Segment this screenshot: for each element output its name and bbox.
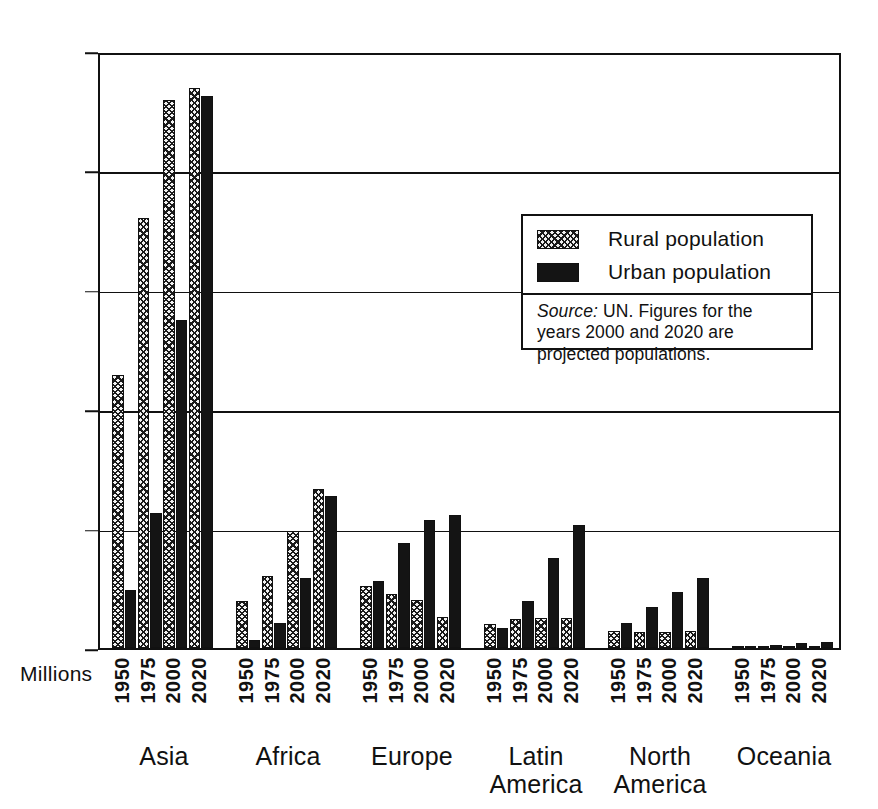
bar-europe-1975-rural xyxy=(386,594,398,648)
bar-north-america-1975-rural xyxy=(634,632,646,648)
x-tick-label-latin-america-2000: 2000 xyxy=(535,657,555,704)
y-tick-mark-2000 xyxy=(85,172,98,174)
bar-asia-1975-rural xyxy=(138,218,150,648)
bar-africa-1950-urban xyxy=(249,640,261,648)
legend-row-rural: Rural population xyxy=(537,227,797,251)
y-tick-mark-1500 xyxy=(85,291,98,293)
bar-asia-1950-rural xyxy=(112,375,124,648)
legend-label-urban: Urban population xyxy=(608,260,771,284)
region-label-africa: Africa xyxy=(220,742,356,770)
x-tick-label-north-america-1950: 1950 xyxy=(608,657,628,704)
region-label-asia: Asia xyxy=(96,742,232,770)
population-bar-chart-figure: 05001000150020002500 1950197520002020195… xyxy=(0,0,878,809)
bar-latin-america-2020-rural xyxy=(561,618,573,648)
bar-north-america-1975-urban xyxy=(646,607,658,648)
bar-north-america-1950-urban xyxy=(621,623,633,648)
x-tick-label-oceania-2020: 2020 xyxy=(809,657,829,704)
y-axis-unit-label: Millions xyxy=(20,662,92,686)
x-tick-label-asia-2000: 2000 xyxy=(163,657,183,704)
bar-latin-america-1975-rural xyxy=(510,619,522,648)
legend-row-urban: Urban population xyxy=(537,260,797,284)
y-tick-mark-0 xyxy=(85,649,98,651)
legend-divider xyxy=(523,293,811,295)
bar-asia-2020-urban xyxy=(201,96,213,648)
legend-swatch-urban-icon xyxy=(537,263,579,282)
x-tick-label-latin-america-1975: 1975 xyxy=(510,657,530,704)
page-caption-remnant xyxy=(0,789,878,809)
bar-oceania-1975-urban xyxy=(770,645,782,648)
x-tick-label-oceania-2000: 2000 xyxy=(783,657,803,704)
x-tick-label-africa-2000: 2000 xyxy=(287,657,307,704)
bar-europe-1975-urban xyxy=(398,543,410,648)
bar-europe-2020-urban xyxy=(449,515,461,648)
bar-latin-america-1950-rural xyxy=(484,624,496,648)
y-tick-mark-2500 xyxy=(85,52,98,54)
bar-latin-america-2020-urban xyxy=(573,525,585,648)
bar-north-america-1950-rural xyxy=(608,631,620,648)
x-tick-label-africa-2020: 2020 xyxy=(313,657,333,704)
bar-asia-1975-urban xyxy=(150,513,162,648)
bar-africa-2020-urban xyxy=(325,496,337,648)
bar-oceania-1975-rural xyxy=(758,646,770,648)
bar-north-america-2000-urban xyxy=(672,592,684,648)
x-tick-label-asia-2020: 2020 xyxy=(189,657,209,704)
x-tick-label-oceania-1975: 1975 xyxy=(758,657,778,704)
bar-north-america-2020-rural xyxy=(685,631,697,648)
gridline-2500 xyxy=(100,53,841,55)
bar-north-america-2020-urban xyxy=(697,578,709,648)
bar-latin-america-2000-urban xyxy=(548,558,560,648)
bar-africa-2020-rural xyxy=(313,489,325,648)
legend-swatch-rural-icon xyxy=(537,230,579,249)
bar-europe-2020-rural xyxy=(437,617,449,648)
bar-europe-1950-urban xyxy=(373,581,385,648)
x-tick-label-oceania-1950: 1950 xyxy=(732,657,752,704)
bar-north-america-2000-rural xyxy=(659,632,671,648)
bar-latin-america-1950-urban xyxy=(497,628,509,648)
bar-latin-america-1975-urban xyxy=(522,601,534,648)
bar-latin-america-2000-rural xyxy=(535,618,547,648)
bar-europe-2000-urban xyxy=(424,520,436,648)
bar-asia-2000-urban xyxy=(176,320,188,648)
y-tick-mark-500 xyxy=(85,530,98,532)
bar-asia-1950-urban xyxy=(125,590,137,649)
bar-oceania-2020-rural xyxy=(809,646,821,648)
bar-africa-2000-rural xyxy=(287,531,299,648)
x-tick-label-north-america-1975: 1975 xyxy=(634,657,654,704)
bar-europe-1950-rural xyxy=(360,586,372,648)
bar-asia-2000-rural xyxy=(163,100,175,648)
chart-legend: Rural population Urban population Source… xyxy=(521,214,813,350)
x-tick-label-latin-america-2020: 2020 xyxy=(561,657,581,704)
bar-oceania-1950-urban xyxy=(745,646,757,648)
x-tick-label-asia-1975: 1975 xyxy=(138,657,158,704)
x-tick-label-north-america-2000: 2000 xyxy=(659,657,679,704)
bar-oceania-1950-rural xyxy=(732,646,744,648)
x-tick-label-europe-2000: 2000 xyxy=(411,657,431,704)
bar-africa-2000-urban xyxy=(300,578,312,648)
bar-asia-2020-rural xyxy=(189,88,201,648)
x-tick-label-latin-america-1950: 1950 xyxy=(484,657,504,704)
x-tick-label-north-america-2020: 2020 xyxy=(685,657,705,704)
region-label-europe: Europe xyxy=(344,742,480,770)
bar-africa-1975-rural xyxy=(262,576,274,648)
bar-oceania-2000-urban xyxy=(796,643,808,648)
legend-source-prefix: Source: xyxy=(537,301,598,321)
region-label-oceania: Oceania xyxy=(716,742,852,770)
plot-right-border xyxy=(839,53,841,648)
x-tick-label-africa-1950: 1950 xyxy=(236,657,256,704)
legend-label-rural: Rural population xyxy=(608,227,764,251)
bar-oceania-2000-rural xyxy=(783,646,795,648)
legend-source-note: Source: UN. Figures for the years 2000 a… xyxy=(537,301,797,367)
bar-oceania-2020-urban xyxy=(821,642,833,648)
y-tick-mark-1000 xyxy=(85,410,98,412)
bar-europe-2000-rural xyxy=(411,600,423,648)
x-tick-label-africa-1975: 1975 xyxy=(262,657,282,704)
x-tick-label-europe-1975: 1975 xyxy=(386,657,406,704)
bar-africa-1950-rural xyxy=(236,601,248,648)
x-tick-label-asia-1950: 1950 xyxy=(112,657,132,704)
x-tick-label-europe-1950: 1950 xyxy=(360,657,380,704)
bar-africa-1975-urban xyxy=(274,623,286,648)
x-tick-label-europe-2020: 2020 xyxy=(437,657,457,704)
